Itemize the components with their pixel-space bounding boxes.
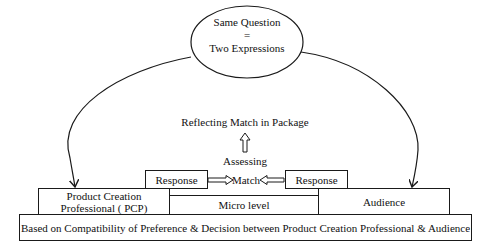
ellipse-text-equals: = [191,29,303,41]
reflecting-match-label: Reflecting Match in Package [165,116,325,128]
match-label: Match [230,174,262,186]
up-hollow-arrow [240,133,250,152]
assessing-label: Assessing [210,155,280,167]
left-hollow-arrow [260,176,284,185]
ellipse-text-line3: Two Expressions [191,42,303,54]
pcp-label-line1: Product Creation [67,190,142,202]
response-left-label: Response [155,174,197,186]
audience-label: Audience [363,196,405,208]
audience-box: Audience [318,188,450,215]
base-compatibility-box: Based on Compatibility of Preference & D… [19,214,472,241]
micro-level-box: Micro level [168,195,320,215]
pcp-label-line2: Professional ( PCP) [61,202,148,214]
response-right-box: Response [285,170,348,189]
pcp-box: Product Creation Professional ( PCP) [38,188,170,215]
ellipse-text-line1: Same Question [191,16,303,28]
base-compatibility-label: Based on Compatibility of Preference & D… [21,222,470,234]
micro-level-label: Micro level [218,199,269,211]
response-right-label: Response [295,174,337,186]
response-left-box: Response [145,170,208,189]
